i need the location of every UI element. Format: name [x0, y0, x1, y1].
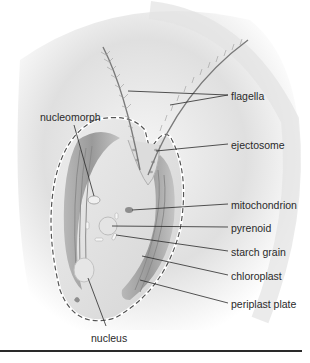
label-nucleus: nucleus	[91, 332, 127, 344]
label-flagella: flagella	[231, 90, 264, 102]
label-mitochondrion: mitochondrion	[231, 199, 297, 211]
label-pyrenoid: pyrenoid	[231, 222, 271, 234]
label-nucleomorph: nucleomorph	[40, 111, 101, 123]
label-chloroplast: chloroplast	[231, 270, 282, 282]
mitochondrion	[125, 207, 133, 213]
label-starch-grain: starch grain	[231, 246, 286, 258]
label-ejectosome: ejectosome	[231, 139, 285, 151]
nucleus	[74, 258, 94, 282]
bottom-rule	[0, 350, 302, 352]
cryptomonad-diagram: flagella nucleomorph ejectosome mitochon…	[0, 0, 310, 363]
label-periplast-plate: periplast plate	[231, 298, 296, 310]
nucleomorph	[88, 196, 100, 204]
